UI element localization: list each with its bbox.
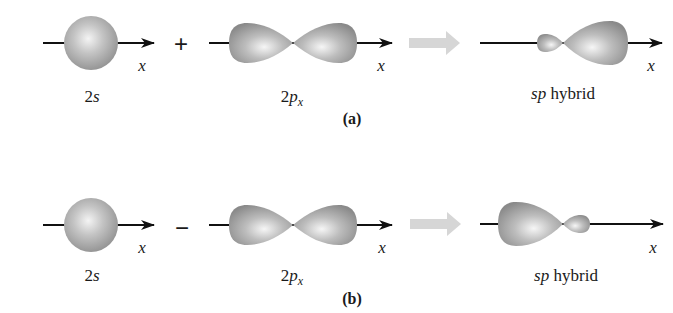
p-lobe-right <box>293 23 357 63</box>
caption-b: (b) <box>342 290 362 308</box>
plus-operator: + <box>174 30 188 58</box>
minus-operator: − <box>175 214 189 242</box>
reaction-arrow-icon <box>410 212 461 236</box>
label-2s: 2s <box>84 87 99 107</box>
sp-hybrid-a <box>480 21 662 65</box>
p-orbital-b <box>209 205 392 245</box>
axis-label-x: x <box>647 56 655 76</box>
axis-label-x: x <box>138 56 146 76</box>
hybrid-large-lobe <box>563 21 628 65</box>
label-sp-hybrid: sp hybrid <box>531 84 595 104</box>
axis-label-x: x <box>378 238 386 258</box>
axis-label-x: x <box>377 56 385 76</box>
caption-a: (a) <box>343 110 362 128</box>
label-2px: 2px <box>281 87 303 107</box>
reaction-arrow-icon <box>409 31 460 55</box>
hybrid-small-lobe <box>537 34 563 52</box>
sp-hybrid-b <box>480 202 663 246</box>
p-lobe-left <box>229 23 293 63</box>
label-2px: 2px <box>281 266 303 286</box>
s-orbital-sphere <box>64 16 118 70</box>
panel-b <box>43 198 663 252</box>
label-sp-hybrid: sp hybrid <box>534 266 598 286</box>
hybrid-large-lobe <box>498 202 563 246</box>
s-orbital-sphere <box>64 198 118 252</box>
axis-label-x: x <box>138 238 146 258</box>
p-orbital-a <box>209 23 392 63</box>
hybrid-small-lobe <box>563 215 590 233</box>
p-lobe-right <box>293 205 357 245</box>
panel-a <box>43 16 662 70</box>
axis-label-x: x <box>649 238 657 258</box>
p-lobe-left <box>229 205 293 245</box>
label-2s: 2s <box>84 266 99 286</box>
